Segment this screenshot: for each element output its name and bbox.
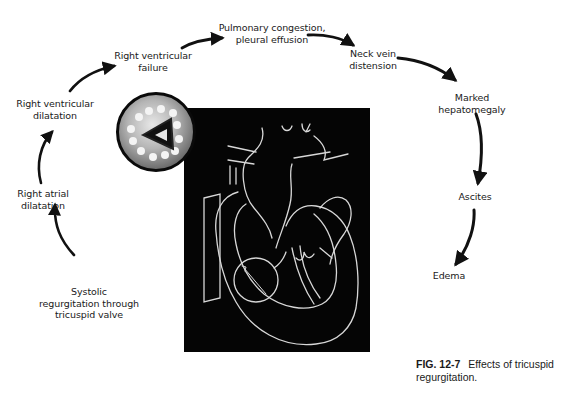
caption-text-line1: Effects of tricuspid bbox=[468, 358, 554, 370]
step-marked-hepatomegaly: Marked hepatomegaly bbox=[432, 92, 512, 115]
heart-cross-section-icon bbox=[184, 108, 370, 352]
step-neck-vein-distension: Neck vein distension bbox=[340, 48, 406, 71]
arrow-s2-s3 bbox=[39, 132, 52, 183]
heart-illustration bbox=[184, 108, 370, 352]
step-right-atrial-dilatation: Right atrial dilatation bbox=[10, 188, 76, 211]
figure-caption: FIG. 12-7Effects of tricuspid regurgitat… bbox=[416, 358, 588, 384]
step-right-ventricular-failure: Right ventricular failure bbox=[108, 50, 198, 73]
step-right-ventricular-dilatation: Right ventricular dilatation bbox=[10, 98, 100, 121]
arrow-s6-s7 bbox=[398, 58, 455, 80]
arrow-s7-s8 bbox=[476, 114, 482, 183]
arrow-s8-s9 bbox=[456, 210, 474, 264]
step-edema: Edema bbox=[424, 270, 474, 282]
step-systolic-regurgitation: Systolic regurgitation through tricuspid… bbox=[34, 286, 144, 321]
arrow-s1-s2 bbox=[55, 205, 74, 255]
step-pulmonary-congestion: Pulmonary congestion, pleural effusion bbox=[212, 22, 332, 45]
figure-number: FIG. 12-7 bbox=[416, 358, 460, 370]
tricuspid-valve-inset bbox=[116, 92, 196, 172]
tricuspid-valve-icon bbox=[119, 95, 193, 169]
step-ascites: Ascites bbox=[450, 191, 500, 203]
caption-text-line2: regurgitation. bbox=[416, 371, 477, 383]
